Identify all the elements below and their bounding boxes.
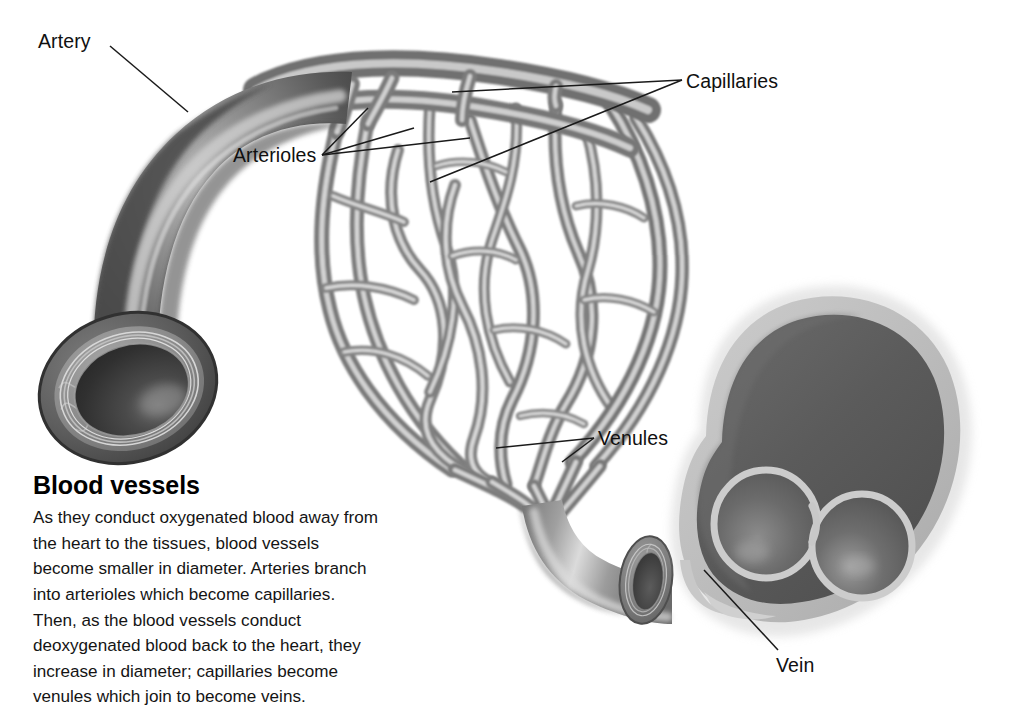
artery (20, 72, 352, 485)
artery-cut-end (20, 291, 235, 485)
illustration-page: Artery Capillaries Arterioles Venules Ve… (0, 0, 1016, 726)
vein-valve-right-glint (842, 556, 874, 576)
vein-valve-left-glint (735, 541, 769, 563)
caption-body: As they conduct oxygenated blood away fr… (33, 505, 378, 710)
caption-block: Blood vessels As they conduct oxygenated… (33, 472, 378, 710)
capillary-network (322, 104, 682, 486)
leader-artery (110, 46, 188, 112)
page-title: Blood vessels (33, 472, 378, 498)
